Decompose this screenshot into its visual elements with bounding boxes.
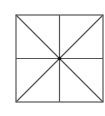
center-dot: [58, 57, 62, 61]
diagram-canvas: [0, 0, 105, 116]
